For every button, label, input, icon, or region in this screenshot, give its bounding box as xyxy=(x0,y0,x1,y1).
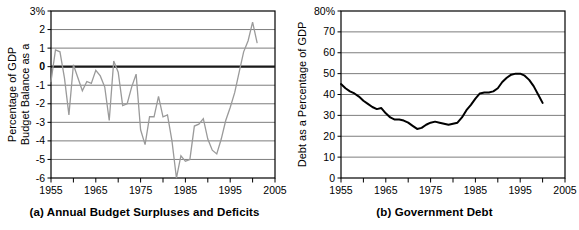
y-tick-label: -4 xyxy=(36,134,45,146)
x-tick-label: 1955 xyxy=(39,184,63,196)
y-tick-label: 0 xyxy=(39,60,45,72)
x-tick-label: 1995 xyxy=(509,184,533,196)
y-tick-label: 20 xyxy=(323,130,335,142)
y-tick-label: 60 xyxy=(323,46,335,58)
y-tick-label: 80% xyxy=(314,5,335,17)
y-tick-label: 3% xyxy=(30,5,45,17)
x-tick-label: 2005 xyxy=(263,184,287,196)
x-tick-label: 1965 xyxy=(374,184,398,196)
y-axis-title: Percentage of GDP xyxy=(6,47,18,142)
chart-panel-b: 01020304050607080%1955196519751985199520… xyxy=(290,0,579,230)
x-tick-label: 1985 xyxy=(464,184,488,196)
plot-frame xyxy=(51,11,275,178)
x-tick-label: 2005 xyxy=(553,184,577,196)
y-tick-label: -1 xyxy=(36,79,45,91)
y-tick-label: 40 xyxy=(323,88,335,100)
chart-caption-b: (b) Government Debt xyxy=(290,206,579,218)
y-tick-label: 70 xyxy=(323,25,335,37)
y-tick-label: 1 xyxy=(39,42,45,54)
data-series-line xyxy=(51,22,257,178)
y-tick-label: 2 xyxy=(39,23,45,35)
y-tick-label: 0 xyxy=(329,172,335,184)
y-tick-label: 30 xyxy=(323,109,335,121)
y-tick-label: -2 xyxy=(36,97,45,109)
x-tick-label: 1975 xyxy=(419,184,443,196)
data-series-line xyxy=(341,74,543,129)
x-tick-label: 1965 xyxy=(84,184,108,196)
x-tick-label: 1975 xyxy=(129,184,153,196)
y-tick-label: -5 xyxy=(36,153,45,165)
chart-caption-a: (a) Annual Budget Surpluses and Deficits xyxy=(0,206,289,218)
budget-balance-chart: -6-5-4-3-2-10123%19551965197519851995200… xyxy=(0,0,289,200)
x-tick-label: 1985 xyxy=(174,184,198,196)
y-tick-label: 10 xyxy=(323,151,335,163)
chart-panel-a: -6-5-4-3-2-10123%19551965197519851995200… xyxy=(0,0,289,230)
y-tick-label: -6 xyxy=(36,172,45,184)
y-axis-title: Debt as a Percentage of GDP xyxy=(296,22,308,168)
y-tick-label: -3 xyxy=(36,116,45,128)
government-debt-chart: 01020304050607080%1955196519751985199520… xyxy=(290,0,579,200)
x-tick-label: 1955 xyxy=(329,184,353,196)
y-axis-title: Budget Balance as a xyxy=(19,43,31,145)
figure-root: -6-5-4-3-2-10123%19551965197519851995200… xyxy=(0,0,579,230)
x-tick-label: 1995 xyxy=(219,184,243,196)
y-tick-label: 50 xyxy=(323,67,335,79)
